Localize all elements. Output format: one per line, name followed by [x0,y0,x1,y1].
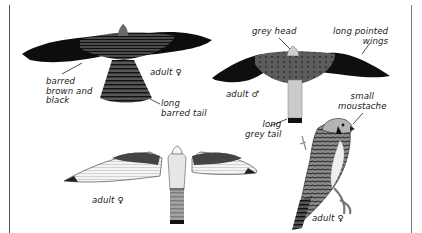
bird3-body [168,152,186,190]
bird4-eye [342,124,345,127]
bird4-pointer-moustache [353,113,363,124]
label-bird3-adult-female: adult ♀ [92,196,124,206]
bird4-sprig [300,136,306,150]
bird3-head [172,146,182,154]
bird1-pointer-barred [62,63,82,74]
bird4-beak [350,126,355,131]
annotation-long-pointed-wings: long pointed wings [333,27,388,46]
label-bird2-adult-male: adult ♂ [226,90,259,100]
bird-female-underside [64,146,257,224]
bird1-pointer-tail [150,99,160,104]
annotation-barred-brown-black: barred brown and black [46,77,93,106]
bird2-pointer-head [279,38,290,49]
annotation-small-moustache: small moustache [338,92,387,111]
annotation-long-barred-tail: long barred tail [161,99,207,118]
annotation-long-grey-tail: long grey tail [245,120,281,139]
annotation-grey-head: grey head [252,27,296,37]
bird4-perch-branch [334,188,351,214]
bird3-tail [170,188,184,222]
label-bird4-adult-female: adult ♀ [312,214,344,224]
bird-male-upperside [212,38,390,126]
bird1-head [118,24,128,36]
bird2-grey-tail [288,80,302,118]
label-bird1-adult-female: adult ♀ [150,68,182,78]
bird2-tail-band [288,118,302,123]
bird3-tail-band [170,220,184,224]
bird1-tail [100,60,152,103]
